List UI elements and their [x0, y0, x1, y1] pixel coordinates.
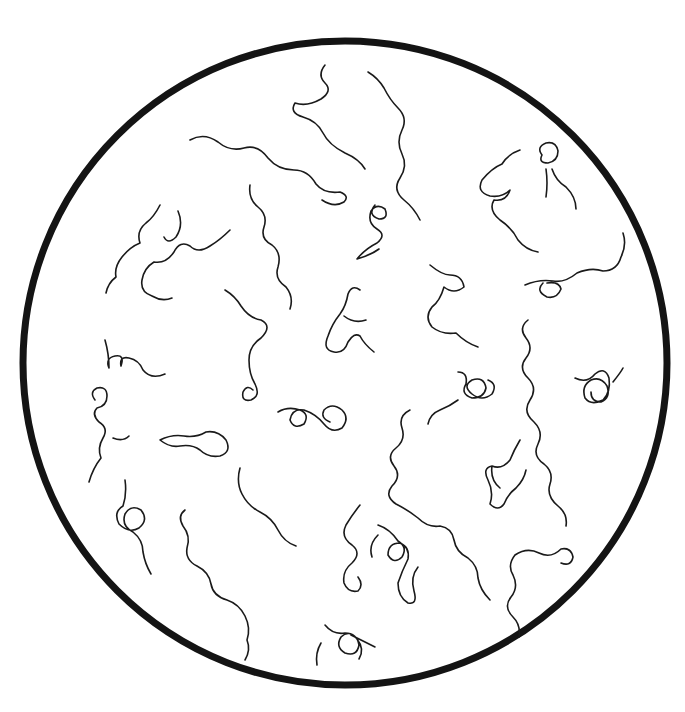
paper-background [0, 0, 685, 712]
microscope-field-illustration [0, 0, 685, 712]
